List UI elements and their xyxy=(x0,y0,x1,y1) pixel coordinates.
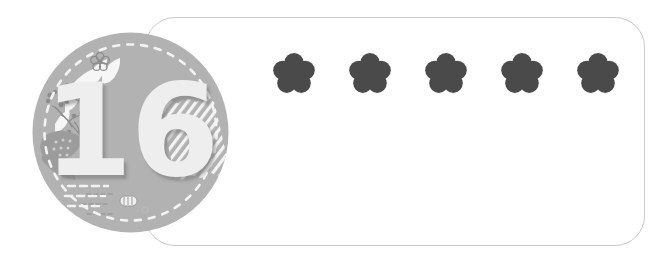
flower-icon xyxy=(576,51,620,95)
flower-icon xyxy=(424,51,468,95)
flower-icon xyxy=(500,51,544,95)
flower-icon xyxy=(272,51,316,95)
number-badge xyxy=(32,32,229,233)
worksheet-row: 16 xyxy=(0,0,662,261)
flower-icon xyxy=(348,51,392,95)
flower-row xyxy=(272,50,620,96)
